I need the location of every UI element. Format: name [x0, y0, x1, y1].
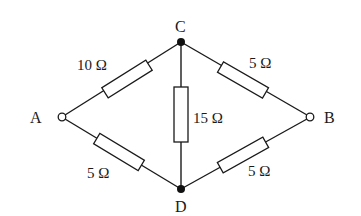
- circuit-diagram: 10 Ω 5 Ω 15 Ω 5 Ω 5 Ω C D A B: [0, 0, 361, 216]
- label-resistor-d-b: 5 Ω: [248, 163, 270, 179]
- terminal-b: [306, 113, 314, 121]
- node-label-a: A: [30, 109, 42, 126]
- junction-c: [177, 38, 185, 46]
- terminal-a: [58, 113, 66, 121]
- resistor-c-d: [174, 87, 188, 142]
- label-resistor-c-d: 15 Ω: [193, 110, 223, 126]
- label-resistor-c-b: 5 Ω: [249, 55, 271, 71]
- label-resistor-a-d: 5 Ω: [87, 165, 109, 181]
- junction-d: [177, 185, 185, 193]
- node-label-d: D: [175, 198, 187, 215]
- node-label-c: C: [175, 18, 186, 35]
- resistor-a-c: [102, 60, 152, 98]
- node-label-b: B: [324, 109, 335, 126]
- label-resistor-a-c: 10 Ω: [77, 57, 107, 73]
